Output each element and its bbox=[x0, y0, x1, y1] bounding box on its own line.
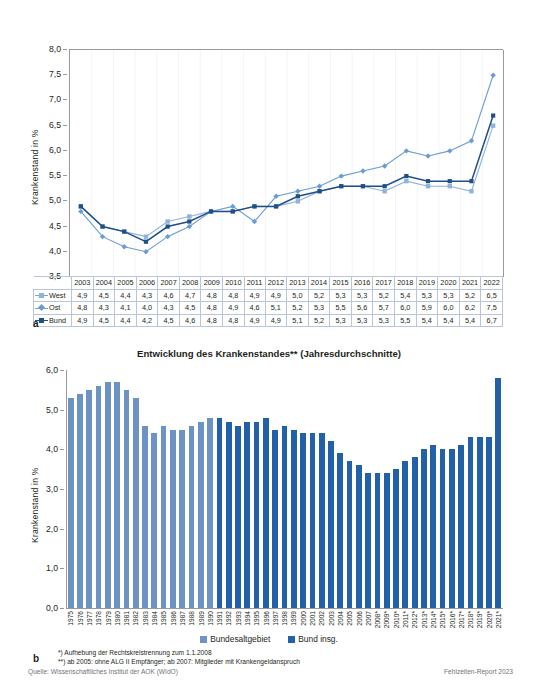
x-tick-label: 2000 bbox=[300, 611, 307, 626]
table-col-header: 2018 bbox=[395, 277, 417, 290]
table-col-header: 2004 bbox=[93, 277, 115, 290]
data-point bbox=[122, 244, 127, 249]
bar bbox=[468, 437, 474, 608]
table-col-header: 2015 bbox=[330, 277, 352, 290]
y-tick-mark bbox=[60, 608, 64, 609]
x-tick-label: 2004 bbox=[337, 611, 344, 626]
legend-item: Bundesaltgebiet bbox=[200, 634, 270, 644]
data-point bbox=[469, 138, 474, 143]
table-col-header: 2013 bbox=[287, 277, 309, 290]
bar bbox=[96, 386, 102, 608]
data-point bbox=[469, 179, 473, 183]
y-tick-label: 4,0 bbox=[46, 444, 58, 454]
panel-b-x-axis-line bbox=[66, 608, 503, 609]
x-tick-label: 2012* bbox=[411, 611, 418, 628]
y-tick-label: 5,0 bbox=[46, 405, 58, 415]
table-row: West4,94,54,44,34,64,74,84,84,94,95,05,2… bbox=[34, 289, 503, 302]
data-point bbox=[209, 209, 213, 213]
bar bbox=[226, 422, 232, 608]
data-point bbox=[122, 230, 126, 234]
table-col-header: 2020 bbox=[438, 277, 460, 290]
table-cell: 4,2 bbox=[136, 314, 158, 327]
panel-b-bar-chart: Entwicklung des Krankenstandes** (Jahres… bbox=[0, 338, 538, 638]
bar bbox=[207, 418, 213, 608]
x-tick-label: 1980 bbox=[114, 611, 121, 626]
x-tick-label: 1996 bbox=[263, 611, 270, 626]
data-point bbox=[404, 174, 408, 178]
bar bbox=[263, 418, 269, 608]
x-tick-label: 1989 bbox=[198, 611, 205, 626]
x-tick-label: 2007 bbox=[365, 611, 372, 626]
bar bbox=[356, 465, 362, 608]
x-tick-label: 1990 bbox=[207, 611, 214, 626]
table-cell: 7,5 bbox=[481, 302, 503, 315]
table-cell: 4,7 bbox=[179, 289, 201, 302]
table-cell: 5,6 bbox=[351, 302, 373, 315]
table-cell: 4,8 bbox=[223, 289, 245, 302]
y-tick-label: 6,5 bbox=[49, 120, 61, 130]
bar bbox=[486, 437, 492, 608]
bar bbox=[291, 430, 297, 609]
bar bbox=[495, 378, 501, 608]
bar bbox=[235, 426, 241, 608]
table-cell: 4,8 bbox=[201, 302, 223, 315]
x-tick-label: 2017* bbox=[458, 611, 465, 628]
x-tick-label: 1977 bbox=[86, 611, 93, 626]
table-cell: 5,4 bbox=[395, 289, 417, 302]
table-row-label: West bbox=[49, 291, 66, 300]
table-cell: 5,5 bbox=[330, 302, 352, 315]
x-tick-label: 1987 bbox=[179, 611, 186, 626]
y-tick-mark bbox=[63, 99, 67, 100]
table-cell: 5,3 bbox=[416, 289, 438, 302]
bar bbox=[477, 437, 483, 608]
x-tick-label: 1985 bbox=[160, 611, 167, 626]
table-cell: 4,5 bbox=[158, 314, 180, 327]
bar bbox=[77, 394, 83, 608]
table-col-header: 2006 bbox=[136, 277, 158, 290]
data-point bbox=[165, 219, 169, 223]
x-tick-label: 2021* bbox=[495, 611, 502, 628]
table-col-header: 2008 bbox=[179, 277, 201, 290]
figure-page: Krankenstand in % 8,07,57,06,56,05,55,04… bbox=[0, 0, 538, 698]
table-cell: 5,3 bbox=[330, 314, 352, 327]
table-cell: 5,3 bbox=[330, 289, 352, 302]
bar bbox=[449, 449, 455, 608]
bar bbox=[68, 398, 74, 608]
y-tick-label: 7,0 bbox=[49, 94, 61, 104]
x-tick-label: 1995 bbox=[253, 611, 260, 626]
table-col-header: 2011 bbox=[244, 277, 265, 290]
x-tick-label: 1984 bbox=[151, 611, 158, 626]
y-tick-mark bbox=[63, 74, 67, 75]
y-tick-label: 5,5 bbox=[49, 170, 61, 180]
x-tick-label: 2008* bbox=[374, 611, 381, 628]
table-cell: 4,6 bbox=[179, 314, 201, 327]
table-col-header: 2003 bbox=[72, 277, 94, 290]
x-tick-label: 1982 bbox=[132, 611, 139, 626]
table-cell: 4,3 bbox=[136, 289, 158, 302]
table-cell: 4,4 bbox=[115, 314, 137, 327]
table-cell: 4,0 bbox=[136, 302, 158, 315]
x-tick-label: 2020* bbox=[486, 611, 493, 628]
x-tick-label: 2002 bbox=[318, 611, 325, 626]
table-cell: 4,6 bbox=[158, 289, 180, 302]
legend-label: Bundesaltgebiet bbox=[210, 634, 270, 644]
data-point bbox=[296, 194, 300, 198]
table-cell: 4,8 bbox=[201, 314, 223, 327]
y-tick-label: 4,5 bbox=[49, 221, 61, 231]
x-tick-label: 1999 bbox=[290, 611, 297, 626]
bar bbox=[300, 433, 306, 608]
y-tick-label: 1,0 bbox=[46, 563, 58, 573]
panel-a-series-svg bbox=[70, 50, 504, 277]
data-point bbox=[296, 199, 300, 203]
y-tick-mark bbox=[63, 49, 67, 50]
table-cell: 5,2 bbox=[308, 314, 330, 327]
table-cell: 5,0 bbox=[287, 289, 309, 302]
y-tick-label: 6,0 bbox=[49, 145, 61, 155]
table-cell: 5,3 bbox=[308, 302, 330, 315]
y-tick-mark bbox=[60, 568, 64, 569]
table-cell: 4,4 bbox=[115, 289, 137, 302]
bar bbox=[310, 433, 316, 608]
table-cell: 4,9 bbox=[265, 289, 287, 302]
table-col-header: 2022 bbox=[481, 277, 503, 290]
y-tick-mark bbox=[60, 489, 64, 490]
